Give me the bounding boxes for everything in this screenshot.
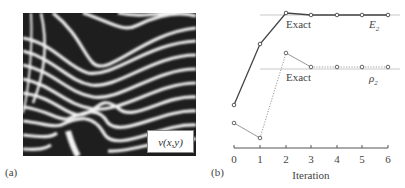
exact-label-e2: Exact bbox=[286, 18, 311, 30]
svg-text:0: 0 bbox=[231, 153, 237, 165]
exact-label-rho2: Exact bbox=[286, 71, 311, 83]
svg-text:6: 6 bbox=[385, 153, 391, 165]
svg-text:2: 2 bbox=[283, 153, 289, 165]
series-rho2-seg bbox=[260, 53, 286, 138]
x-tick-labels: 0 1 2 3 4 5 6 bbox=[231, 153, 391, 165]
svg-text:3: 3 bbox=[308, 153, 314, 165]
svg-text:5: 5 bbox=[359, 153, 365, 165]
panel-b-label: (b) bbox=[211, 166, 224, 179]
series-label-e2: E2 bbox=[368, 18, 380, 33]
series-label-rho2: ρ2 bbox=[368, 72, 378, 87]
svg-text:4: 4 bbox=[334, 153, 340, 165]
series-rho2-seg bbox=[234, 123, 260, 138]
x-axis-label: Iteration bbox=[292, 169, 330, 181]
series-rho2-markers bbox=[232, 51, 390, 140]
convergence-chart: Exact Exact E2 ρ2 0 1 2 3 4 5 6 Iteratio… bbox=[0, 0, 405, 188]
series-rho2-seg bbox=[286, 53, 311, 67]
svg-text:1: 1 bbox=[257, 153, 263, 165]
